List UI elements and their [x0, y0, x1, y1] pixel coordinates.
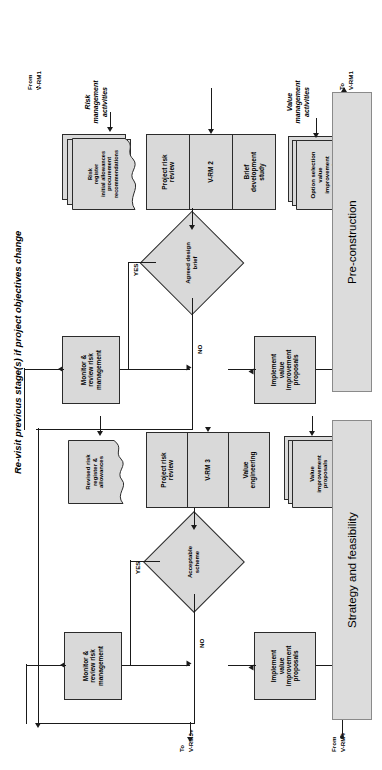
- arrow-into-decision-acceptable: [191, 525, 197, 530]
- stage-vrm3[interactable]: Project risk review V-RM 3 Value enginee…: [146, 432, 270, 508]
- decision-acceptable-scheme[interactable]: Acceptable scheme: [158, 526, 230, 598]
- spacer3: [36, 87, 38, 88]
- phase-banner-strategy-and-feasibility: Strategy and feasibility: [332, 420, 372, 720]
- revisit-note: Re-visit previous stage(s) if project ob…: [12, 231, 23, 474]
- decision-acceptable-scheme-label: Acceptable scheme: [158, 526, 230, 598]
- decision-acceptable-yes-label: YES: [134, 562, 141, 574]
- arrow-to-vrm3plus: [187, 737, 193, 742]
- decision-agreed-design-brief-label: Agreed design brief: [155, 226, 229, 300]
- arrow-revisit-left: [35, 723, 41, 728]
- connector-acceptable-yes: [130, 561, 160, 562]
- doc-revised-risk-register[interactable]: Revised risk register & allowances: [68, 438, 126, 504]
- connector-from-vrm1: [211, 88, 212, 130]
- connector-vrm3-to-value-doc: [312, 416, 313, 432]
- connector-vrm2-to-option-doc: [316, 118, 317, 134]
- connector-agreed-no-up: [36, 429, 193, 430]
- decision-agreed-no-label: NO: [196, 345, 203, 354]
- connector-monitor2-out: [26, 665, 66, 666]
- connector-monitor2-rail: [26, 664, 27, 724]
- doc-stack-sheet-1: Risk register initial allowances procure…: [72, 138, 136, 210]
- decision-agreed-design-brief[interactable]: Agreed design brief: [155, 226, 229, 300]
- to-vrm1-label-line2: V-RM1: [347, 71, 354, 90]
- decision-acceptable-no-label: NO: [198, 639, 205, 648]
- stage-vrm2-code: V-RM 2: [189, 135, 233, 209]
- stage-vrm2[interactable]: Project risk review V-RM 2 Brief develop…: [146, 134, 276, 210]
- arrow-to-value-doc: [309, 431, 315, 436]
- from-vrm4-label-line1: From: [330, 737, 337, 752]
- arrow-into-implement1: [249, 369, 254, 375]
- connector-acceptable-no-up: [38, 723, 195, 724]
- proc-monitor-risk-2[interactable]: Monitor & review risk management: [64, 632, 122, 700]
- connector-agreed-yes: [128, 262, 156, 263]
- doc-risk-register-initial[interactable]: Risk register initial allowances procure…: [62, 132, 136, 210]
- connector-agreed-yes-spine: [128, 262, 129, 370]
- from-vrm1-label-line1: From: [26, 75, 33, 90]
- stage-vrm3-code: V-RM 3: [187, 433, 229, 507]
- doc-risk-register-initial-label: Risk register initial allowances procure…: [72, 140, 134, 208]
- connector-revisit-spine: [38, 428, 39, 724]
- connector-vrm2-to-risk-doc: [110, 112, 111, 128]
- decision-agreed-yes-label: YES: [132, 264, 139, 276]
- connector-vrm3-to-revised-doc: [100, 416, 101, 432]
- stage-vrm2-value-activity: Brief development study: [233, 135, 275, 209]
- arrow-agreed-yes-to-value: [187, 365, 192, 371]
- arrow-into-decision-agreed: [189, 225, 195, 230]
- connector-monitor1-rail: [24, 368, 25, 430]
- phase-banner-pre-construction: Pre-construction: [332, 92, 372, 392]
- stage-vrm3-risk-activity: Project risk review: [147, 433, 187, 507]
- doc-sheet: Revised risk register & allowances: [68, 440, 124, 504]
- arrow-acceptable-yes-to-value: [187, 661, 192, 667]
- arrow-to-option-doc: [313, 133, 319, 138]
- stage-vrm3-value-activity: Value engineering: [229, 433, 269, 507]
- stage-vrm2-risk-activity: Project risk review: [147, 135, 189, 209]
- doc-revised-risk-register-label: Revised risk register & allowances: [68, 441, 122, 503]
- connector-agreed-yes-down: [128, 369, 190, 370]
- arrow-into-vrm3: [205, 427, 211, 432]
- connector-vrm3-to-decision: [194, 508, 195, 526]
- connector-vrm2-to-decision: [192, 208, 193, 226]
- arrow-into-implement2: [249, 665, 254, 671]
- proc-monitor-risk-1[interactable]: Monitor & review risk management: [62, 336, 120, 404]
- connector-acceptable-yes-down: [130, 665, 190, 666]
- arrow-to-risk-doc: [107, 127, 113, 132]
- arrow-to-revised-doc: [97, 431, 103, 436]
- group-label-risk-management: Risk management activities: [84, 70, 109, 134]
- junction-dot-from-vrm4: [340, 735, 344, 739]
- connector-acceptable-no: [194, 594, 195, 724]
- flowchart-canvas: Re-visit previous stage(s) if project ob…: [0, 0, 382, 770]
- connector-agreed-no: [192, 298, 193, 430]
- proc-implement-value-2[interactable]: Implement value improvement proposals: [254, 632, 316, 700]
- connector-to-vrm3plus: [190, 722, 191, 736]
- diagram-rotation-wrapper: Re-visit previous stage(s) if project ob…: [0, 0, 382, 770]
- proc-implement-value-1[interactable]: Implement value improvement proposals: [254, 336, 316, 404]
- to-vrm3plus-label-line1: To: [178, 745, 185, 752]
- group-label-value-management: Value management activities: [286, 70, 311, 134]
- connector-acceptable-yes-spine: [130, 560, 131, 666]
- connector-monitor1-out: [24, 369, 64, 370]
